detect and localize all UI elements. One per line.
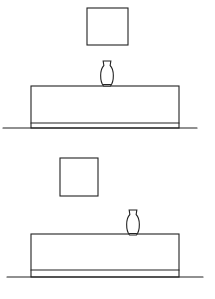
vase-icon bbox=[127, 210, 140, 235]
scene-top-arrangement bbox=[3, 8, 197, 128]
wall-picture-frame bbox=[60, 158, 98, 196]
wall-picture-frame bbox=[87, 8, 128, 45]
scene-bottom-arrangement bbox=[7, 158, 203, 277]
drawing-canvas bbox=[0, 0, 215, 299]
furniture-arrangement-diagram bbox=[0, 0, 215, 299]
vase-icon bbox=[101, 61, 114, 86]
sideboard-cabinet bbox=[31, 86, 179, 128]
